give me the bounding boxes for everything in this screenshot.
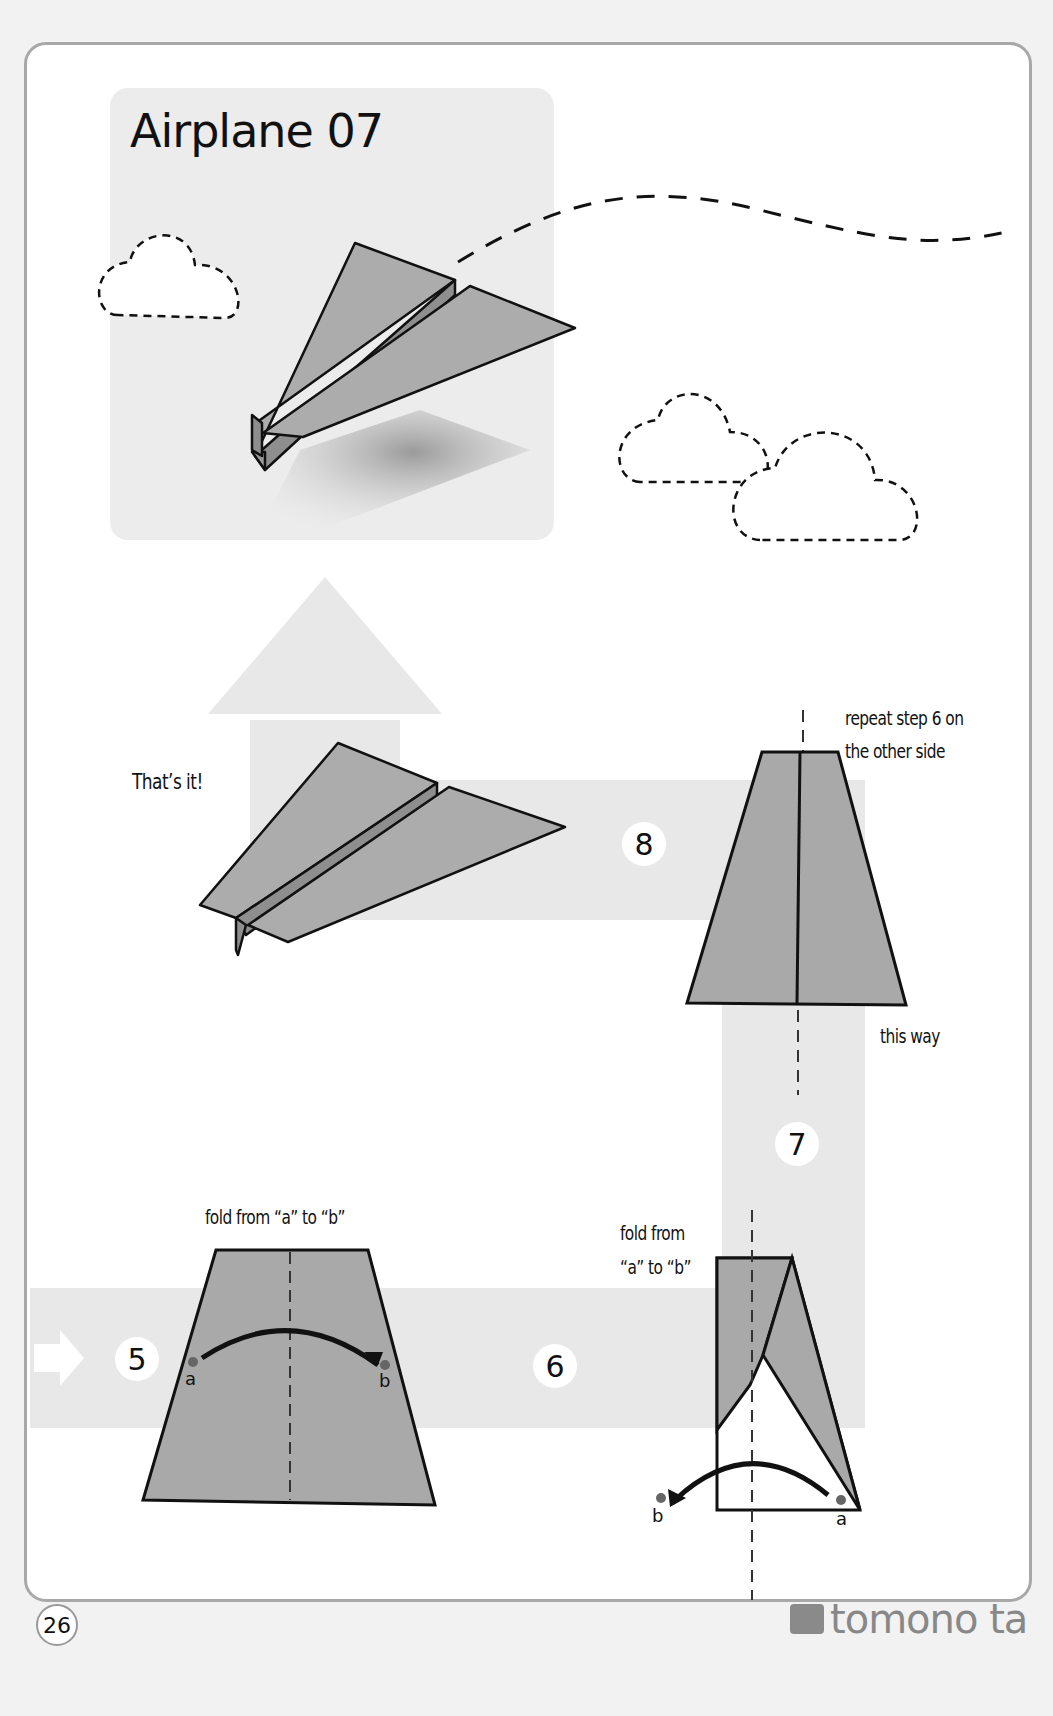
repeat-note-line2: the other side — [845, 740, 945, 762]
direction-note: this way — [880, 1025, 940, 1047]
step-6-instruction-line1: fold from — [620, 1222, 685, 1244]
step-number-7: 7 — [775, 1122, 819, 1166]
point-a-label: a — [185, 1368, 196, 1389]
diagram-artwork — [0, 0, 1053, 1716]
page-title: Airplane 07 — [130, 104, 383, 158]
step-number-5: 5 — [115, 1337, 159, 1381]
point-a-label: a — [836, 1508, 847, 1529]
brand-name: tomono ta — [830, 1596, 1027, 1642]
step-number-8: 8 — [622, 822, 666, 866]
brand-logo: tomono ta — [790, 1596, 1027, 1642]
instruction-page: Airplane 07 That’s it! repeat step 6 on … — [0, 0, 1053, 1716]
cloud-icon — [619, 394, 767, 482]
point-b-label: b — [652, 1505, 663, 1526]
repeat-note-line1: repeat step 6 on — [845, 707, 963, 729]
step-5-instruction: fold from “a” to “b” — [205, 1206, 345, 1228]
finish-text: That’s it! — [132, 770, 203, 794]
page-number: 26 — [36, 1604, 78, 1646]
step-6-instruction-line2: “a” to “b” — [620, 1256, 691, 1278]
brand-icon — [790, 1604, 824, 1634]
step-number-6: 6 — [533, 1344, 577, 1388]
point-b-label: b — [379, 1370, 390, 1391]
